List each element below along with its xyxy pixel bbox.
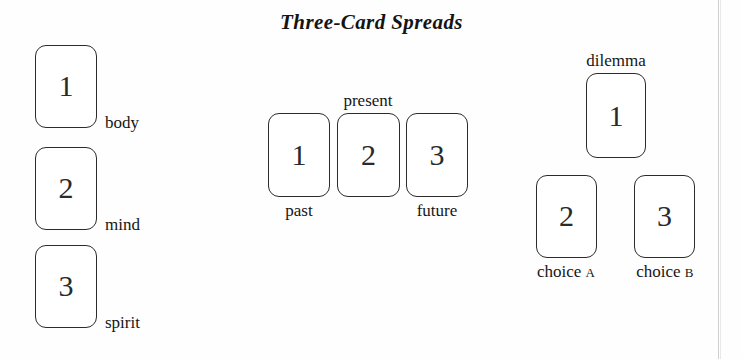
choice-b-word: choice	[636, 262, 680, 281]
card-label-mind: mind	[105, 216, 140, 233]
card: 2	[536, 175, 597, 258]
choice-a-word: choice	[537, 262, 581, 281]
card-number: 1	[36, 71, 96, 101]
page-scan-edge-shadow	[720, 0, 721, 359]
card-number: 2	[338, 140, 399, 170]
card-number: 3	[635, 201, 694, 231]
card: 3	[406, 113, 468, 197]
card-label-spirit: spirit	[105, 314, 140, 331]
card-label-choice-a: choice A	[516, 263, 616, 280]
page-scan-edge	[718, 0, 719, 359]
card-label-future: future	[397, 202, 477, 219]
card: 3	[35, 245, 97, 328]
card-label-past: past	[259, 202, 339, 219]
card: 1	[268, 113, 330, 197]
card-label-dilemma: dilemma	[556, 52, 676, 69]
page-title: Three-Card Spreads	[0, 10, 743, 35]
card: 2	[35, 147, 97, 230]
card-number: 3	[36, 271, 96, 301]
card: 3	[634, 175, 695, 258]
three-card-spreads-figure: Three-Card Spreads 1 body 2 mind 3 spiri…	[0, 0, 743, 359]
card-label-choice-b: choice B	[615, 263, 715, 280]
choice-a-letter: A	[586, 265, 596, 280]
card-number: 1	[587, 101, 645, 131]
card-number: 2	[36, 173, 96, 203]
card-number: 3	[407, 140, 467, 170]
card-number: 1	[269, 140, 329, 170]
card: 2	[337, 113, 400, 197]
card: 1	[35, 45, 97, 128]
card-label-body: body	[105, 114, 139, 131]
card-label-present: present	[308, 92, 428, 109]
card: 1	[586, 73, 646, 158]
card-number: 2	[537, 201, 596, 231]
choice-b-letter: B	[685, 265, 694, 280]
